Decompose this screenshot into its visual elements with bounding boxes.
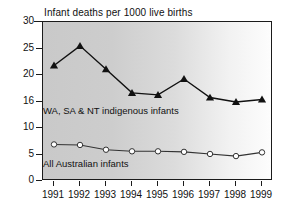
x-tick-mark — [53, 181, 54, 186]
data-point-marker — [155, 149, 160, 154]
y-tick-label: 5 — [6, 149, 34, 159]
x-tick-label: 1992 — [68, 189, 90, 200]
data-point-marker — [51, 142, 56, 147]
y-tick-label: 25 — [6, 43, 34, 53]
x-tick-label: 1996 — [172, 189, 194, 200]
y-tick-label: 16 — [6, 96, 34, 106]
data-point-marker — [103, 147, 108, 152]
x-tick-mark — [79, 181, 80, 186]
x-tick-label: 1995 — [146, 189, 168, 200]
y-axis: 30 25 20 16 10 5 0 — [4, 21, 34, 180]
data-point-marker — [259, 150, 264, 155]
y-tick-mark — [36, 180, 42, 181]
x-tick-label: 1999 — [250, 189, 272, 200]
data-point-marker — [181, 149, 186, 154]
x-tick-label: 1997 — [198, 189, 220, 200]
x-tick-label: 1998 — [224, 189, 246, 200]
x-tick-mark — [157, 181, 158, 186]
data-point-marker — [233, 153, 238, 158]
chart-figure: Infant deaths per 1000 live births 30 25… — [0, 0, 284, 212]
data-point-marker — [129, 149, 134, 154]
y-tick-label: 10 — [6, 122, 34, 132]
series-plot — [43, 22, 272, 180]
data-point-marker — [76, 42, 84, 49]
annotation-all-australian-series: All Australian infants — [43, 158, 129, 169]
x-tick-mark — [183, 181, 184, 186]
x-tick-label: 1994 — [120, 189, 142, 200]
data-point-marker — [180, 75, 188, 82]
x-tick-mark — [209, 181, 210, 186]
y-tick-label: 20 — [6, 69, 34, 79]
x-tick-label: 1993 — [94, 189, 116, 200]
chart-title: Infant deaths per 1000 live births — [44, 7, 193, 19]
x-tick-mark — [235, 181, 236, 186]
annotation-indigenous-series: WA, SA & NT indigenous infants — [43, 105, 179, 116]
x-tick-mark — [261, 181, 262, 186]
y-tick-label: 30 — [6, 16, 34, 26]
y-tick-label: 0 — [6, 175, 34, 185]
markers-indigenous — [50, 42, 266, 105]
x-tick-mark — [131, 181, 132, 186]
x-tick-mark — [105, 181, 106, 186]
data-point-marker — [207, 151, 212, 156]
x-tick-label: 1991 — [42, 189, 64, 200]
data-point-marker — [77, 142, 82, 147]
plot-area — [42, 21, 272, 180]
